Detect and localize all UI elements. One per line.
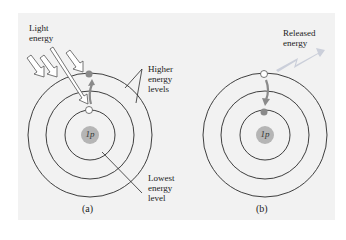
lowest-label-line3: level [148, 193, 175, 203]
released-energy-label: Released energy [283, 28, 315, 48]
label-pointers-a [102, 69, 142, 193]
ground-state-vacancy [86, 107, 93, 114]
higher-label-line1: Higher [148, 64, 173, 74]
relaxed-electron [261, 109, 268, 116]
down-arrow-icon [262, 98, 270, 106]
released-label-line1: Released [283, 28, 315, 38]
caption-a: (a) [82, 203, 93, 214]
higher-label-line3: levels [148, 84, 173, 94]
lowest-label-line1: Lowest [148, 173, 175, 183]
light-energy-arrows-icon [27, 47, 88, 104]
panel-b-electrons [261, 71, 271, 116]
up-arrow-icon [88, 79, 95, 86]
excited-electron [86, 71, 93, 78]
lowest-energy-level-label: Lowest energy level [148, 173, 175, 203]
light-label-line2: energy [29, 33, 53, 43]
nucleus-label-b: 1p [255, 129, 275, 139]
nucleus-label-a: 1p [80, 129, 100, 139]
released-label-line2: energy [283, 38, 315, 48]
vacated-excited-state [261, 71, 268, 78]
light-energy-label: Light energy [29, 23, 53, 43]
higher-energy-levels-label: Higher energy levels [148, 64, 173, 94]
higher-label-line2: energy [148, 74, 173, 84]
panel-a-electrons [86, 71, 96, 114]
released-energy-arrow-icon [276, 48, 325, 72]
lowest-label-line2: energy [148, 183, 175, 193]
caption-b: (b) [256, 203, 268, 214]
light-label-line1: Light [29, 23, 53, 33]
